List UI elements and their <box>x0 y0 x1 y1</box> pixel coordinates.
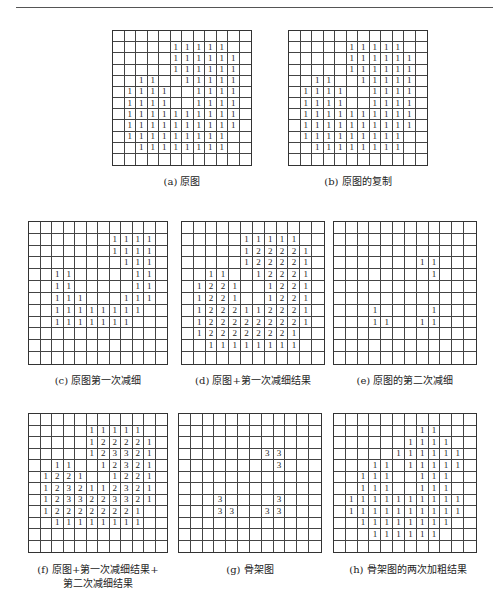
grid-cell: 1 <box>300 246 312 258</box>
grid-cell: 1 <box>144 460 156 472</box>
grid-cell <box>312 246 324 258</box>
grid-cell <box>274 529 286 541</box>
grid-cell <box>440 414 452 426</box>
grid-cell <box>312 154 324 165</box>
grid-cell <box>98 257 110 269</box>
grid-cell: 1 <box>110 305 122 317</box>
grid-cell <box>334 257 346 269</box>
grid-cell: 1 <box>148 87 160 98</box>
grid-cell: 1 <box>404 109 416 120</box>
grid-cell: 1 <box>205 87 217 98</box>
grid-cell: 3 <box>274 449 286 461</box>
grid-cell: 1 <box>347 132 359 143</box>
grid-cell <box>416 143 428 154</box>
grid-cell <box>29 529 41 541</box>
grid-cell: 1 <box>381 460 393 472</box>
grid-cell: 2 <box>98 495 110 507</box>
grid-cell <box>464 293 476 305</box>
grid-cell: 1 <box>381 42 393 53</box>
grid-cell: 1 <box>194 132 206 143</box>
grid-cell <box>240 109 252 120</box>
grid-cell: 1 <box>370 42 382 53</box>
grid-cell: 1 <box>369 317 381 329</box>
grid-cell <box>144 426 156 438</box>
grid-cell <box>393 305 405 317</box>
grid-cell <box>179 541 191 553</box>
grid-cell <box>262 495 274 507</box>
grid-cell <box>214 518 226 530</box>
grid-cell <box>393 472 405 484</box>
grid-cell <box>182 246 194 258</box>
grid-cell <box>29 222 41 234</box>
grid-cell: 1 <box>312 76 324 87</box>
grid-cell <box>98 246 110 258</box>
grid-cell <box>98 472 110 484</box>
grid-cell: 2 <box>133 460 145 472</box>
grid-cell <box>440 246 452 258</box>
caption-line: (g) 骨架图 <box>178 563 322 577</box>
grid-cell: 1 <box>370 65 382 76</box>
grid-cell: 1 <box>194 65 206 76</box>
grid-cell <box>416 109 428 120</box>
grid-cell <box>171 31 183 42</box>
grid-cell: 1 <box>136 98 148 109</box>
grid-cell: 1 <box>381 529 393 541</box>
grid-cell <box>29 234 41 246</box>
grid-cell <box>405 426 417 438</box>
grid-cell: 1 <box>136 143 148 154</box>
grid-cell <box>113 109 125 120</box>
grid-cell <box>228 154 240 165</box>
grid-cell <box>87 222 99 234</box>
grid-cell: 1 <box>121 305 133 317</box>
grid-cell <box>52 352 64 364</box>
grid-cell <box>358 449 370 461</box>
grid-cell <box>214 414 226 426</box>
grid-cell <box>191 449 203 461</box>
grid-cell <box>113 120 125 131</box>
grid-cell: 1 <box>205 65 217 76</box>
grid-cell: 1 <box>75 293 87 305</box>
grid-cell: 1 <box>393 53 405 64</box>
grid-cell <box>452 269 464 281</box>
grid-cell <box>194 234 206 246</box>
grid-cell <box>113 143 125 154</box>
grid-cell <box>182 87 194 98</box>
grid-cell <box>334 495 346 507</box>
grid-cell: 1 <box>253 234 265 246</box>
grid-cell <box>250 437 262 449</box>
grid-cell <box>285 541 297 553</box>
grid-cell <box>440 317 452 329</box>
grid-cell <box>452 529 464 541</box>
grid-cell <box>179 449 191 461</box>
grid-cell <box>206 352 218 364</box>
grid-cell <box>358 340 370 352</box>
pixel-grid-f: 1111112222112332111123211221122112321123… <box>28 413 168 553</box>
grid-cell <box>133 414 145 426</box>
grid-cell: 1 <box>121 246 133 258</box>
grid-cell <box>312 42 324 53</box>
grid-cell: 1 <box>52 293 64 305</box>
grid-cell <box>203 529 215 541</box>
grid-cell <box>288 352 300 364</box>
grid-cell: 1 <box>370 109 382 120</box>
grid-cell <box>29 293 41 305</box>
grid-cell: 1 <box>393 109 405 120</box>
grid-cell <box>417 340 429 352</box>
grid-cell: 2 <box>133 483 145 495</box>
caption-line: (d) 原图+第一次减细结果 <box>175 374 331 388</box>
grid-cell <box>241 352 253 364</box>
grid-cell <box>64 328 76 340</box>
grid-cell <box>226 449 238 461</box>
grid-cell <box>217 257 229 269</box>
grid-cell: 2 <box>52 506 64 518</box>
grid-cell <box>346 426 358 438</box>
grid-cell <box>416 42 428 53</box>
grid-cell <box>217 246 229 258</box>
grid-cell: 1 <box>452 449 464 461</box>
grid-cell <box>429 352 441 364</box>
grid-cell: 1 <box>324 132 336 143</box>
grid-cell <box>289 65 301 76</box>
grid-cell: 1 <box>171 143 183 154</box>
grid-cell: 1 <box>171 53 183 64</box>
grid-cell <box>41 541 53 553</box>
